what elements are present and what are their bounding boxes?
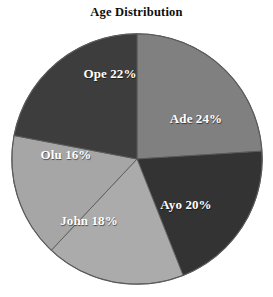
- pie-chart-plot-area: [11, 33, 263, 285]
- pie-chart-svg: [11, 33, 263, 285]
- pie-chart-figure: Age Distribution Ade 24%Ayo 20%John 18%O…: [0, 0, 273, 297]
- pie-slice-ade[interactable]: [137, 34, 262, 159]
- pie-slice-group: [12, 34, 262, 284]
- chart-title: Age Distribution: [0, 5, 273, 20]
